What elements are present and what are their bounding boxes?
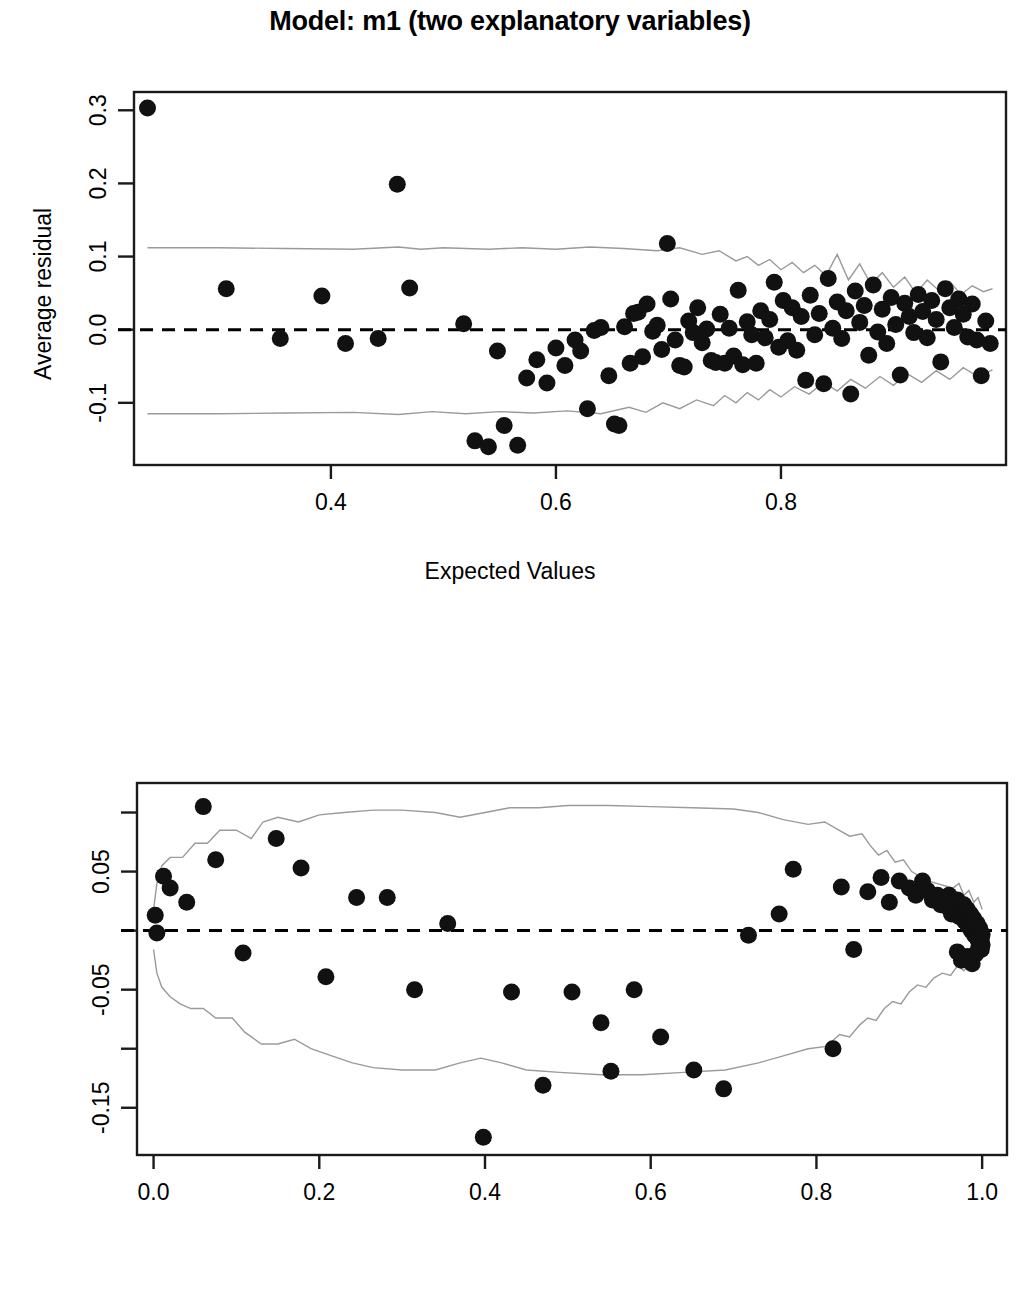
data-point — [825, 1040, 842, 1057]
x-tick-label: 0.6 — [635, 1179, 667, 1205]
data-point — [439, 915, 456, 932]
envelope-lower-line — [154, 950, 983, 1075]
data-point — [348, 889, 365, 906]
data-point — [317, 968, 334, 985]
data-point — [379, 889, 396, 906]
x-tick-label: 0.4 — [469, 1179, 501, 1205]
data-point — [715, 1080, 732, 1097]
data-point — [785, 861, 802, 878]
data-point — [685, 1061, 702, 1078]
data-point — [503, 984, 520, 1001]
data-point — [771, 906, 788, 923]
data-point — [207, 851, 224, 868]
data-point — [162, 880, 179, 897]
data-point — [967, 946, 984, 963]
data-point — [195, 798, 212, 815]
data-point — [652, 1028, 669, 1045]
data-point — [740, 927, 757, 944]
x-tick-label: 0.0 — [138, 1179, 170, 1205]
data-point — [268, 830, 285, 847]
data-point — [593, 1014, 610, 1031]
data-point — [602, 1063, 619, 1080]
data-point — [178, 894, 195, 911]
data-point — [475, 1129, 492, 1146]
y-tick-label: 0.05 — [88, 849, 114, 894]
data-point — [881, 894, 898, 911]
data-point — [293, 860, 310, 877]
data-point — [873, 869, 890, 886]
x-tick-label: 0.2 — [303, 1179, 335, 1205]
data-point — [845, 941, 862, 958]
data-point — [564, 984, 581, 1001]
data-point — [949, 943, 966, 960]
data-point — [235, 945, 252, 962]
data-point — [833, 878, 850, 895]
x-tick-label: 0.8 — [800, 1179, 832, 1205]
data-point — [535, 1077, 552, 1094]
scatter-plot-m2: 0.00.20.40.60.81.00.05-0.05-0.15 — [0, 0, 1020, 1295]
y-tick-label: -0.05 — [88, 963, 114, 1015]
data-point — [974, 926, 991, 943]
y-tick-label: -0.15 — [88, 1082, 114, 1134]
data-point — [406, 981, 423, 998]
envelope-upper-line — [154, 805, 983, 909]
data-point — [626, 981, 643, 998]
x-tick-label: 1.0 — [966, 1179, 998, 1205]
data-point — [148, 924, 165, 941]
data-point — [859, 883, 876, 900]
plot-frame — [137, 783, 1007, 1155]
data-point — [147, 907, 164, 924]
